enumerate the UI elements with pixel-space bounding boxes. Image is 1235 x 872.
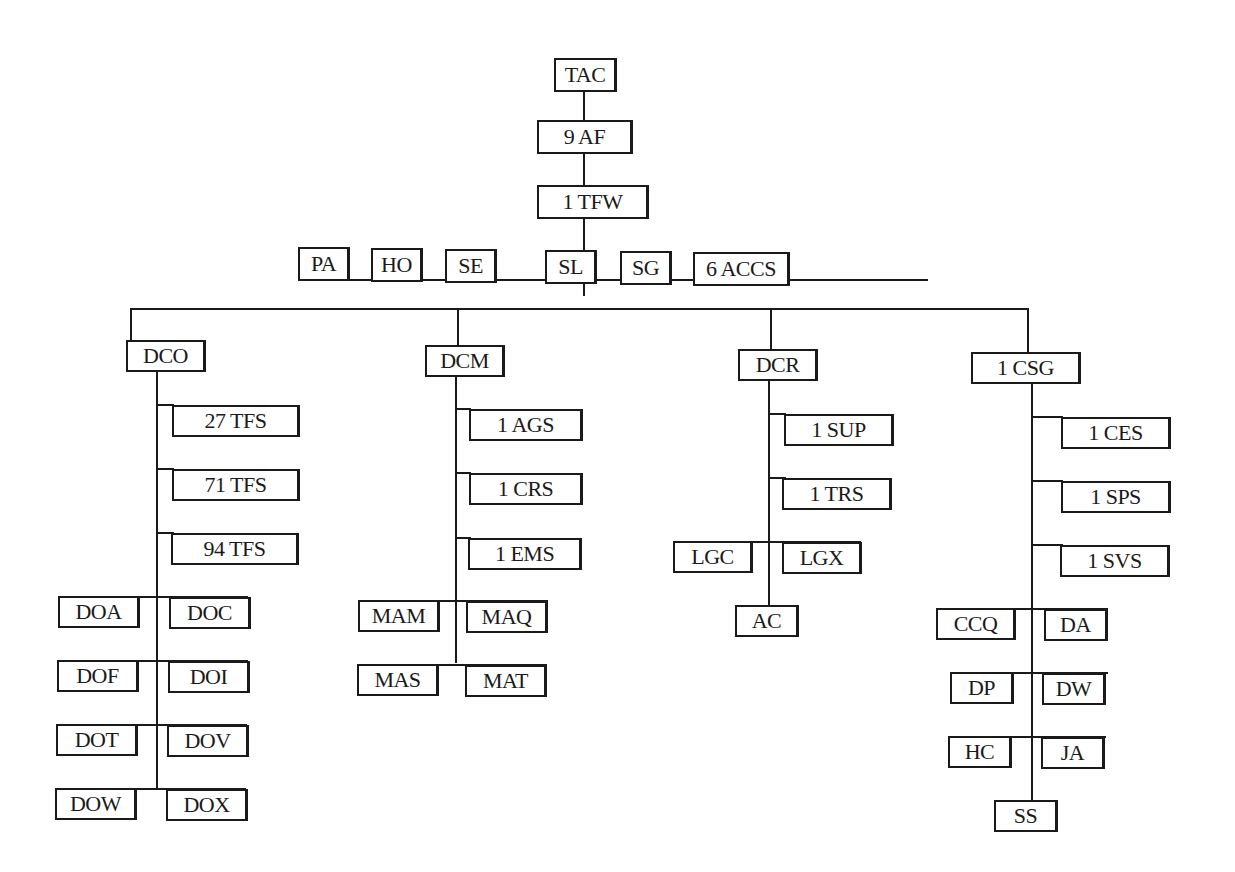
node-dw: DW xyxy=(1042,673,1106,705)
node-1csg: 1 CSG xyxy=(971,352,1081,384)
node-ja: JA xyxy=(1041,737,1105,769)
node-1sps: 1 SPS xyxy=(1061,481,1171,513)
node-1ags: 1 AGS xyxy=(469,409,583,441)
node-9af: 9 AF xyxy=(537,120,633,154)
node-doa: DOA xyxy=(58,596,140,628)
node-dox: DOX xyxy=(166,789,248,821)
node-1sup: 1 SUP xyxy=(784,414,894,446)
node-dcr: DCR xyxy=(738,349,818,381)
connector xyxy=(770,308,772,353)
node-dp: DP xyxy=(950,672,1014,704)
node-dow: DOW xyxy=(55,788,137,820)
org-chart: TAC 9 AF 1 TFW PA HO SE SL SG 6 ACCS DCO… xyxy=(0,0,1235,872)
node-1ems: 1 EMS xyxy=(468,538,582,570)
node-sl: SL xyxy=(545,250,597,284)
node-dof: DOF xyxy=(57,660,139,692)
node-1tfw: 1 TFW xyxy=(537,185,649,219)
connector xyxy=(156,372,158,790)
node-1ces: 1 CES xyxy=(1061,417,1171,449)
connector xyxy=(455,377,457,663)
node-94tfs: 94 TFS xyxy=(171,533,299,565)
node-1svs: 1 SVS xyxy=(1060,545,1170,577)
connector xyxy=(457,308,459,348)
node-pa: PA xyxy=(298,247,350,281)
node-mas: MAS xyxy=(357,664,439,696)
node-hc: HC xyxy=(948,736,1012,768)
connector xyxy=(1031,544,1063,546)
connector xyxy=(1031,480,1063,482)
connector xyxy=(1027,308,1029,358)
node-sg: SG xyxy=(620,251,672,285)
node-27tfs: 27 TFS xyxy=(172,405,300,437)
node-mam: MAM xyxy=(358,600,440,632)
node-dcm: DCM xyxy=(425,345,505,377)
node-71tfs: 71 TFS xyxy=(172,469,300,501)
connector xyxy=(1031,416,1063,418)
node-doc: DOC xyxy=(169,597,251,629)
node-tac: TAC xyxy=(554,58,617,92)
node-lgc: LGC xyxy=(673,541,753,573)
node-se: SE xyxy=(445,249,497,283)
node-dco: DCO xyxy=(126,340,206,372)
node-ccq: CCQ xyxy=(936,608,1016,640)
node-da: DA xyxy=(1044,609,1108,641)
node-1crs: 1 CRS xyxy=(469,473,583,505)
node-doi: DOI xyxy=(168,661,250,693)
connector xyxy=(130,308,1027,310)
node-6accs: 6 ACCS xyxy=(693,252,790,286)
connector xyxy=(130,308,132,342)
node-dov: DOV xyxy=(167,725,249,757)
connector xyxy=(1031,384,1033,802)
node-ho: HO xyxy=(371,248,423,282)
node-maq: MAQ xyxy=(466,601,548,633)
node-dot: DOT xyxy=(56,724,138,756)
node-1trs: 1 TRS xyxy=(782,478,892,510)
node-ss: SS xyxy=(994,800,1058,832)
node-lgx: LGX xyxy=(782,542,862,574)
node-ac: AC xyxy=(735,605,799,637)
node-mat: MAT xyxy=(465,665,547,697)
